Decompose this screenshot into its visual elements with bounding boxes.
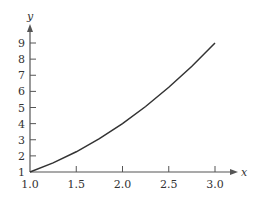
x-tick-label: 1.5 — [68, 178, 86, 191]
x-tick-label: 2.5 — [160, 178, 178, 191]
y-tick-label: 3 — [18, 134, 25, 147]
y-tick-label: 8 — [18, 53, 25, 66]
chart: xy1.01.52.02.53.0123456789 — [0, 0, 260, 198]
x-tick-label: 3.0 — [206, 178, 224, 191]
y-tick-label: 6 — [18, 85, 25, 98]
y-tick-label: 9 — [18, 37, 25, 50]
x-axis-label: x — [241, 166, 248, 179]
y-tick-label: 5 — [18, 102, 25, 115]
x-axis-arrow-icon — [230, 169, 238, 175]
y-axis-label: y — [26, 10, 34, 23]
x-tick-label: 2.0 — [114, 178, 132, 191]
y-tick-label: 7 — [18, 69, 25, 82]
y-axis-arrow-icon — [27, 24, 33, 32]
x-tick-label: 1.0 — [21, 178, 39, 191]
y-tick-label: 1 — [18, 166, 25, 179]
y-tick-label: 2 — [18, 150, 25, 163]
y-tick-label: 4 — [18, 118, 25, 131]
plot-area: xy1.01.52.02.53.0123456789 — [0, 0, 260, 198]
data-curve — [30, 43, 215, 172]
